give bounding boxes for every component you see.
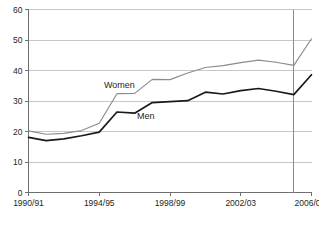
y-tick-label-0: 0 (18, 188, 23, 198)
men-series-label: Men (137, 111, 155, 121)
y-tick-label-40: 40 (13, 66, 23, 76)
series-annotations: WomenMen (104, 80, 155, 121)
gridlines (29, 10, 312, 163)
y-tick-label-10: 10 (13, 157, 23, 167)
axis-ticks (25, 10, 312, 197)
series-path-women (29, 39, 312, 134)
y-tick-label-20: 20 (13, 127, 23, 137)
data-series (29, 39, 312, 141)
y-tick-label-60: 60 (13, 5, 23, 15)
x-tick-label-2002/03: 2002/03 (225, 198, 256, 208)
women-series-label: Women (104, 80, 135, 90)
series-path-men (29, 75, 312, 141)
y-tick-label-50: 50 (13, 35, 23, 45)
x-tick-label-1998/99: 1998/99 (155, 198, 186, 208)
y-tick-label-30: 30 (13, 96, 23, 106)
y-axis-tick-labels: 0102030405060 (13, 5, 23, 198)
line-chart: 0102030405060 1990/911994/951998/992002/… (0, 0, 319, 225)
x-tick-label-1990/91: 1990/91 (13, 198, 44, 208)
chart-canvas: 0102030405060 1990/911994/951998/992002/… (0, 0, 319, 225)
x-axis-tick-labels: 1990/911994/951998/992002/032006/073 (13, 198, 319, 208)
x-tick-label-2006/07: 2006/073 (295, 198, 319, 208)
x-tick-label-1994/95: 1994/95 (84, 198, 115, 208)
